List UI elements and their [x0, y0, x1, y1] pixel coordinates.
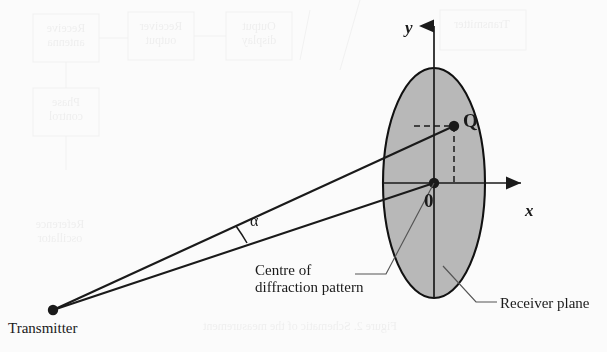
q-point [449, 121, 459, 131]
x-axis-label: x [525, 201, 534, 220]
q-point-label: Q [463, 110, 478, 131]
alpha-angle-label: α [250, 212, 258, 230]
receiver-plane-label: Receiver plane [500, 295, 590, 312]
svg-text:oscillator: oscillator [38, 231, 83, 245]
centre-callout-line-2: diffraction pattern [255, 279, 363, 296]
svg-text:Output: Output [242, 19, 276, 33]
svg-text:Receiver: Receiver [140, 19, 183, 33]
svg-text:control: control [48, 109, 83, 123]
transmitter-label: Transmitter [8, 320, 77, 337]
svg-text:output: output [145, 33, 176, 47]
svg-text:Receive: Receive [47, 21, 86, 35]
centre-of-diffraction-pattern-label: Centre of diffraction pattern [255, 262, 363, 296]
origin-label: 0 [424, 190, 434, 211]
alpha-angle-arc [236, 226, 247, 243]
y-axis-label: y [405, 18, 413, 37]
svg-text:Reference: Reference [36, 217, 85, 231]
svg-text:Figure 2. Schematic of the mea: Figure 2. Schematic of the measurement [202, 319, 397, 333]
svg-text:Transmitter: Transmitter [454, 17, 510, 31]
svg-text:antenna: antenna [47, 35, 85, 49]
diffraction-geometry-figure: Receive antenna Receiver output Output d… [0, 0, 607, 352]
transmitter-point [48, 305, 58, 315]
svg-text:Phase: Phase [52, 95, 80, 109]
centre-callout-line-1: Centre of [255, 262, 363, 279]
ray-transmitter-to-origin [53, 183, 434, 310]
svg-text:display: display [242, 33, 277, 47]
